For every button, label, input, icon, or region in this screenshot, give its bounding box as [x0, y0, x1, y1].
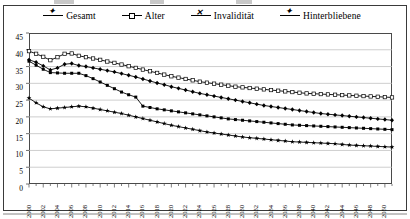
x-tick-label: 2004 [53, 205, 60, 218]
series-marker-gesamt [305, 109, 309, 113]
series-marker-invalidität [99, 80, 102, 83]
series-marker-gesamt [333, 113, 337, 117]
series-marker-alter [276, 89, 279, 92]
series-marker-alter [170, 75, 173, 78]
series-marker-hinterbliebene [311, 140, 316, 145]
series-marker-hinterbliebene [361, 143, 366, 148]
x-tick-label: 2022 [181, 205, 188, 218]
series-marker-invalidität [391, 128, 394, 131]
chart-lines [26, 28, 392, 188]
series-marker-hinterbliebene [219, 132, 224, 137]
series-marker-gesamt [98, 67, 102, 71]
series-marker-gesamt [248, 101, 252, 105]
series-marker-alter [234, 85, 237, 88]
series-marker-invalidität [305, 124, 308, 127]
y-tick-label: 5 [19, 168, 23, 176]
y-tick-label: 35 [16, 68, 24, 76]
series-marker-alter [113, 61, 116, 64]
series-marker-hinterbliebene [276, 138, 281, 143]
y-tick-label: 15 [16, 135, 24, 143]
series-marker-invalidität [220, 116, 223, 119]
x-tick-label: 2014 [124, 205, 131, 218]
series-marker-gesamt [105, 68, 109, 72]
series-marker-invalidität [383, 128, 386, 131]
series-marker-hinterbliebene [318, 141, 323, 146]
series-marker-gesamt [134, 75, 138, 79]
x-tick-label: 2002 [39, 205, 46, 218]
x-tick-label: 2040 [309, 205, 316, 218]
series-marker-invalidität [127, 93, 130, 96]
series-marker-invalidität [42, 68, 45, 71]
series-marker-hinterbliebene [226, 133, 231, 138]
series-marker-hinterbliebene [375, 144, 380, 149]
series-marker-hinterbliebene [119, 111, 124, 116]
series-marker-alter [383, 95, 386, 98]
legend-label: Gesamt [66, 11, 96, 21]
series-marker-alter [284, 90, 287, 93]
series-marker-alter [369, 95, 372, 98]
series-marker-gesamt [347, 114, 351, 118]
series-marker-gesamt [176, 86, 180, 90]
x-tick-label: 2036 [281, 205, 288, 218]
series-marker-alter [56, 55, 59, 58]
series-marker-gesamt [212, 94, 216, 98]
series-marker-invalidität [198, 113, 201, 116]
series-marker-alter [49, 58, 52, 61]
x-tick-label: 2030 [238, 205, 245, 218]
series-marker-gesamt [233, 98, 237, 102]
series-marker-hinterbliebene [190, 127, 195, 132]
x-tick-label: 2026 [210, 205, 217, 218]
series-line-gesamt [29, 60, 392, 120]
series-marker-alter [333, 93, 336, 96]
series-marker-invalidität [291, 123, 294, 126]
y-tick-label: 45 [16, 34, 24, 42]
series-marker-hinterbliebene [304, 140, 309, 145]
series-marker-invalidität [341, 126, 344, 129]
series-marker-gesamt [319, 111, 323, 115]
series-marker-hinterbliebene [176, 124, 181, 129]
series-marker-hinterbliebene [333, 141, 338, 146]
series-marker-alter [212, 82, 215, 85]
series-marker-gesamt [148, 79, 152, 83]
series-marker-gesamt [141, 77, 145, 81]
series-marker-hinterbliebene [155, 119, 160, 124]
series-marker-hinterbliebene [368, 144, 373, 149]
series-marker-gesamt [290, 107, 294, 111]
series-marker-invalidität [191, 112, 194, 115]
series-marker-gesamt [262, 103, 266, 107]
series-marker-gesamt [255, 102, 259, 106]
legend-item-invalidität[interactable]: Invalidität [191, 11, 254, 21]
series-marker-alter [241, 86, 244, 89]
series-marker-invalidität [163, 108, 166, 111]
series-marker-invalidität [362, 127, 365, 130]
series-marker-invalidität [84, 74, 87, 77]
legend-item-gesamt[interactable]: Gesamt [43, 11, 96, 21]
series-marker-invalidität [326, 125, 329, 128]
legend-item-alter[interactable]: Alter [122, 11, 165, 21]
hollow-square-icon [122, 11, 142, 20]
series-marker-invalidität [227, 117, 230, 120]
legend-label: Alter [145, 11, 165, 21]
series-marker-alter [141, 68, 144, 71]
series-marker-alter [219, 83, 222, 86]
x-tick-label: 2042 [323, 205, 330, 218]
legend-item-hinterbliebene[interactable]: Hinterbliebene [280, 11, 361, 21]
series-marker-gesamt [312, 110, 316, 114]
series-marker-alter [177, 76, 180, 79]
series-marker-invalidität [255, 120, 258, 123]
series-marker-hinterbliebene [69, 104, 74, 109]
series-marker-invalidität [177, 110, 180, 113]
series-marker-invalidität [270, 121, 273, 124]
x-tick-label: 2034 [267, 205, 274, 218]
series-marker-gesamt [376, 117, 380, 121]
series-marker-invalidität [49, 71, 52, 74]
series-marker-gesamt [155, 81, 159, 85]
series-marker-alter [205, 81, 208, 84]
filled-diamond-icon [43, 11, 63, 20]
series-marker-invalidität [298, 124, 301, 127]
series-marker-alter [340, 93, 343, 96]
y-tick-label: 30 [16, 84, 24, 92]
series-marker-invalidität [319, 125, 322, 128]
x-tick-label: 2046 [352, 205, 359, 218]
series-marker-gesamt [383, 117, 387, 121]
